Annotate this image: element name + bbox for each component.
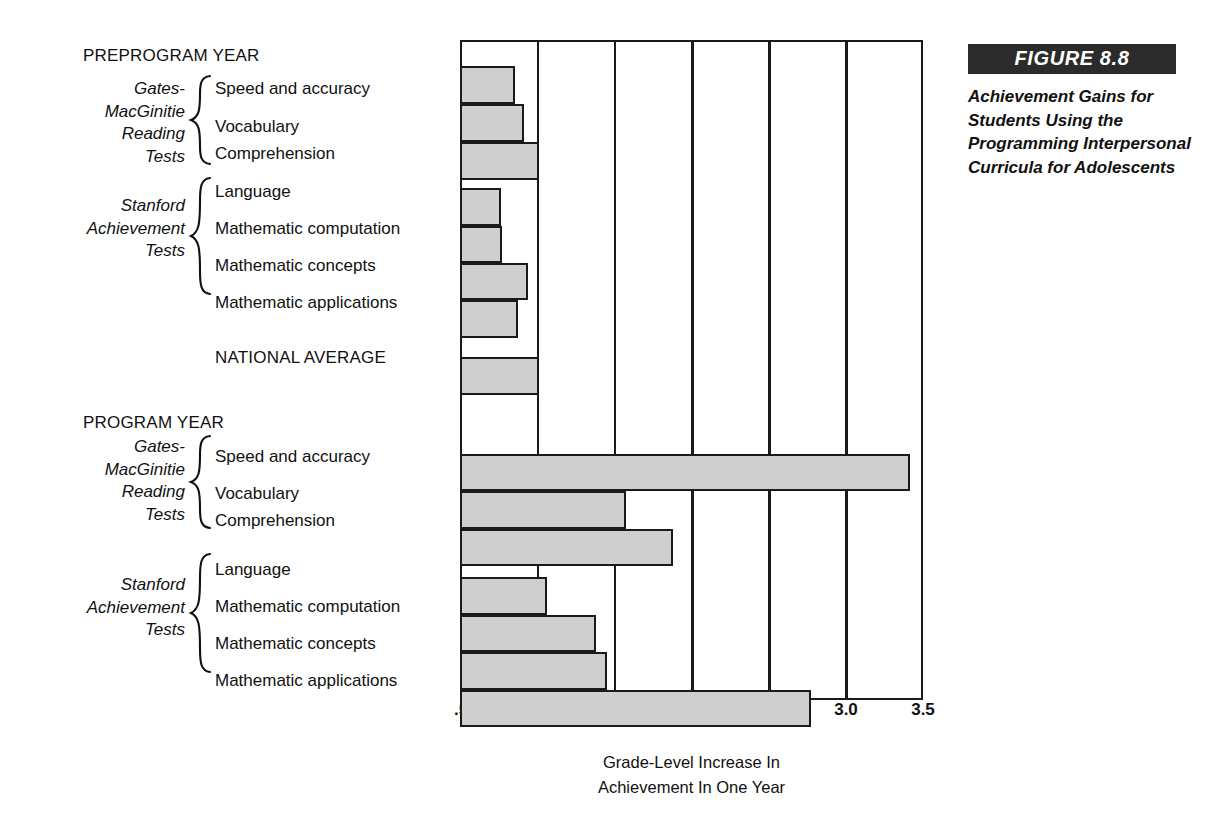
brace-stanford-preprogram xyxy=(188,176,214,300)
x-axis-title: Grade-Level Increase In Achievement In O… xyxy=(460,750,923,800)
bar-program-stanford-math-concepts xyxy=(460,652,608,690)
row-label-vocabulary-program: Vocabulary xyxy=(215,484,299,504)
row-label-math-computation-program: Mathematic computation xyxy=(215,597,400,617)
gridline-1-5 xyxy=(614,42,617,698)
group-label-stanford-program: Stanford Achievement Tests xyxy=(20,574,185,642)
bar-preprogram-stanford-math-concepts xyxy=(460,263,529,300)
group-label-gates-program: Gates- MacGinitie Reading Tests xyxy=(40,436,185,526)
brace-stanford-program xyxy=(188,552,214,678)
section-heading-program: PROGRAM YEAR xyxy=(83,413,224,433)
group-label-line-2: Achievement xyxy=(20,218,185,241)
bar-program-stanford-language xyxy=(460,577,547,615)
bar-program-stanford-math-applications xyxy=(460,690,811,727)
row-label-national-average: NATIONAL AVERAGE xyxy=(215,348,386,368)
row-label-math-computation-preprogram: Mathematic computation xyxy=(215,219,400,239)
group-label-line-1: Gates- xyxy=(40,436,185,459)
bar-preprogram-stanford-math-computation xyxy=(460,226,503,263)
group-label-gates-preprogram: Gates- MacGinitie Reading Tests xyxy=(40,78,185,168)
row-label-speed-program: Speed and accuracy xyxy=(215,447,370,467)
brace-gates-program xyxy=(188,434,214,534)
row-label-math-applications-program: Mathematic applications xyxy=(215,671,397,691)
bar-preprogram-gates-speed xyxy=(460,66,515,104)
bar-program-gates-comprehension xyxy=(460,529,674,566)
x-tick-5: 3.0 xyxy=(826,700,866,720)
group-label-line-2: Achievement xyxy=(20,597,185,620)
group-label-line-3: Tests xyxy=(20,619,185,642)
group-label-line-1: Gates- xyxy=(40,78,185,101)
x-tick-6: 3.5 xyxy=(903,700,943,720)
group-label-line-4: Tests xyxy=(40,504,185,527)
row-label-vocabulary-preprogram: Vocabulary xyxy=(215,117,299,137)
gridline-2-5 xyxy=(768,42,771,698)
gridline-3-0 xyxy=(845,42,848,698)
figure-number-label: FIGURE 8.8 xyxy=(968,47,1176,70)
row-label-math-applications-preprogram: Mathematic applications xyxy=(215,293,397,313)
gridline-2-0 xyxy=(691,42,694,698)
section-heading-preprogram: PREPROGRAM YEAR xyxy=(83,46,260,66)
bar-national-average xyxy=(460,357,540,395)
figure-number-banner: FIGURE 8.8 xyxy=(968,44,1176,74)
row-label-comprehension-program: Comprehension xyxy=(215,511,335,531)
group-label-line-3: Reading xyxy=(40,123,185,146)
row-label-math-concepts-program: Mathematic concepts xyxy=(215,634,376,654)
group-label-line-4: Tests xyxy=(40,146,185,169)
bar-program-stanford-math-computation xyxy=(460,615,597,652)
group-label-line-3: Tests xyxy=(20,240,185,263)
group-label-line-3: Reading xyxy=(40,481,185,504)
plot-area xyxy=(460,40,923,700)
group-label-line-2: MacGinitie xyxy=(40,101,185,124)
bar-preprogram-stanford-math-applications xyxy=(460,300,518,338)
bar-preprogram-gates-vocabulary xyxy=(460,104,524,142)
figure-caption: Achievement Gains for Students Using the… xyxy=(968,85,1198,179)
row-label-speed-preprogram: Speed and accuracy xyxy=(215,79,370,99)
figure-8-8: PREPROGRAM YEAR Gates- MacGinitie Readin… xyxy=(0,0,1212,830)
group-label-line-1: Stanford xyxy=(20,574,185,597)
x-axis-title-line-1: Grade-Level Increase In xyxy=(460,750,923,775)
bar-program-gates-vocabulary xyxy=(460,491,626,529)
bar-program-gates-speed xyxy=(460,454,910,491)
category-label-column: PREPROGRAM YEAR Gates- MacGinitie Readin… xyxy=(0,0,460,700)
row-label-comprehension-preprogram: Comprehension xyxy=(215,144,335,164)
row-label-language-program: Language xyxy=(215,560,291,580)
brace-gates-preprogram xyxy=(188,74,214,170)
x-axis-title-line-2: Achievement In One Year xyxy=(460,775,923,800)
row-label-math-concepts-preprogram: Mathematic concepts xyxy=(215,256,376,276)
bar-preprogram-stanford-language xyxy=(460,188,501,226)
group-label-stanford-preprogram: Stanford Achievement Tests xyxy=(20,195,185,263)
bar-preprogram-gates-comprehension xyxy=(460,142,540,180)
group-label-line-2: MacGinitie xyxy=(40,459,185,482)
group-label-line-1: Stanford xyxy=(20,195,185,218)
row-label-language-preprogram: Language xyxy=(215,182,291,202)
